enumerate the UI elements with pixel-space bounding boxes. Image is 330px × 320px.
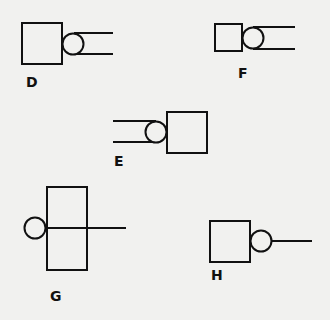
figure-f [215,24,295,51]
circle-shape [25,218,46,239]
label-g: G [50,289,62,303]
label-f: F [238,66,248,80]
square-shape [210,221,250,262]
figure-g [25,187,127,270]
figure-h [210,221,312,262]
label-d: D [26,75,38,89]
square-shape [22,23,62,64]
circle-shape [146,122,167,143]
square-shape [215,24,242,51]
label-h: H [211,268,223,282]
diagram-canvas [0,0,330,320]
circle-shape [251,231,272,252]
circle-shape [63,34,84,55]
figure-d [22,23,113,64]
label-e: E [114,154,124,168]
figure-e [113,112,207,153]
square-shape [167,112,207,153]
circle-shape [243,28,264,49]
